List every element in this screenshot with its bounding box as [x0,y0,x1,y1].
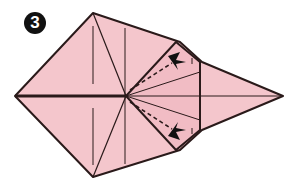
origami-figure [0,0,295,183]
origami-diagram: 3 [0,0,295,183]
